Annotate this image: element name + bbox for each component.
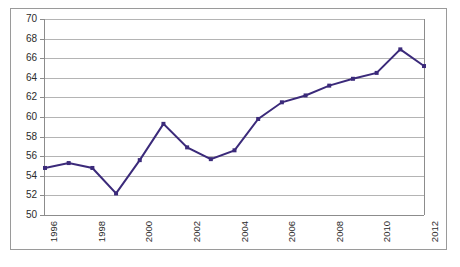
- chart-figure: 5052545658606264666870 19961998200020022…: [10, 8, 447, 250]
- x-tick-label-2006: 2006: [287, 221, 297, 242]
- x-tick-label-2008: 2008: [335, 221, 345, 242]
- data-point-2009: [351, 77, 355, 81]
- y-tick-label-68: 68: [26, 34, 37, 44]
- x-tick-label-2000: 2000: [144, 221, 154, 242]
- data-point-2010: [375, 71, 379, 75]
- gridline-50: [45, 215, 424, 216]
- y-tick-label-58: 58: [26, 132, 37, 142]
- data-point-1999: [114, 191, 118, 195]
- y-tick-label-66: 66: [26, 53, 37, 63]
- plot-area: 5052545658606264666870 19961998200020022…: [44, 19, 425, 215]
- series-polyline: [45, 49, 424, 193]
- y-tick-label-60: 60: [26, 112, 37, 122]
- data-point-1998: [90, 166, 94, 170]
- data-point-2012: [422, 64, 426, 68]
- x-tick-label-2002: 2002: [192, 221, 202, 242]
- series-markers: [43, 47, 426, 195]
- y-tick-label-62: 62: [26, 92, 37, 102]
- data-point-2006: [280, 100, 284, 104]
- y-tick-mark-50: [40, 215, 45, 216]
- y-tick-label-50: 50: [26, 210, 37, 220]
- data-point-2007: [304, 93, 308, 97]
- y-tick-label-56: 56: [26, 151, 37, 161]
- data-point-1997: [67, 161, 71, 165]
- x-tick-label-2010: 2010: [382, 221, 392, 242]
- x-tick-label-1996: 1996: [49, 221, 59, 242]
- data-point-2004: [233, 148, 237, 152]
- y-tick-label-64: 64: [26, 73, 37, 83]
- data-point-2000: [138, 158, 142, 162]
- y-tick-label-54: 54: [26, 171, 37, 181]
- data-point-2008: [327, 84, 331, 88]
- data-point-2002: [185, 145, 189, 149]
- y-tick-label-70: 70: [26, 14, 37, 24]
- x-tick-label-2004: 2004: [240, 221, 250, 242]
- data-point-1996: [43, 166, 47, 170]
- data-point-2005: [256, 117, 260, 121]
- x-tick-label-2012: 2012: [430, 221, 440, 242]
- y-tick-label-52: 52: [26, 190, 37, 200]
- data-point-2011: [398, 47, 402, 51]
- data-point-2003: [209, 157, 213, 161]
- data-series-line: [45, 19, 424, 215]
- data-point-2001: [161, 122, 165, 126]
- x-tick-label-1998: 1998: [97, 221, 107, 242]
